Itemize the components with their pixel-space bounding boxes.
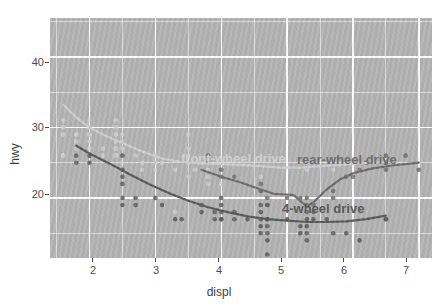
y-tick-label-30: 30 [26, 122, 44, 133]
data-point [160, 160, 165, 165]
data-point [100, 146, 105, 151]
data-point [212, 210, 217, 215]
x-tick-mark-2 [92, 258, 93, 262]
data-point [87, 132, 92, 137]
data-point [331, 189, 336, 194]
data-point [61, 132, 66, 137]
data-point [120, 182, 125, 187]
data-point [258, 182, 263, 187]
data-point [133, 203, 138, 208]
data-point [153, 167, 158, 172]
data-point [114, 118, 119, 123]
data-point [120, 132, 125, 137]
x-tick-label-5: 5 [274, 265, 288, 276]
data-point [173, 217, 178, 222]
data-point [305, 224, 310, 229]
data-point [120, 160, 125, 165]
x-tick-label-3: 3 [149, 265, 163, 276]
data-point [61, 153, 66, 158]
data-point [331, 231, 336, 236]
y-tick-mark-40 [45, 62, 49, 63]
x-tick-label-6: 6 [337, 265, 351, 276]
data-point [305, 196, 310, 201]
data-point [153, 196, 158, 201]
data-point [344, 231, 349, 236]
y-tick-mark-30 [45, 127, 49, 128]
data-point [133, 153, 138, 158]
data-point [305, 238, 310, 243]
series-label-rear-wheel-drive: rear-wheel drive [297, 152, 397, 167]
data-point [114, 153, 119, 158]
data-point [219, 196, 224, 201]
data-point [258, 175, 263, 180]
data-point [357, 238, 362, 243]
data-point [140, 167, 145, 172]
y-tick-label-40: 40 [26, 57, 44, 68]
x-tick-mark-5 [281, 258, 282, 262]
data-point [179, 217, 184, 222]
chart-figure: hwy displ 40 30 20 2 3 4 5 6 7 front-whe… [0, 0, 438, 308]
data-point [173, 210, 178, 215]
y-tick-mark-20 [45, 194, 49, 195]
data-point [74, 160, 79, 165]
x-axis-title: displ [0, 285, 438, 299]
data-point [285, 196, 290, 201]
data-point [120, 196, 125, 201]
data-point [403, 153, 408, 158]
data-point [265, 203, 270, 208]
x-tick-mark-3 [155, 258, 156, 262]
data-point [219, 203, 224, 208]
data-point [114, 125, 119, 130]
data-point [120, 153, 125, 158]
y-axis-title: hwy [8, 143, 22, 164]
data-point [384, 217, 389, 222]
data-point [74, 153, 79, 158]
data-point [114, 132, 119, 137]
data-point [219, 217, 224, 222]
data-point [120, 203, 125, 208]
data-point [74, 132, 79, 137]
data-point [265, 238, 270, 243]
data-point [186, 132, 191, 137]
y-tick-label-20: 20 [26, 189, 44, 200]
series-label-front-wheel-drive: front-wheel drive [181, 151, 286, 166]
data-point [140, 160, 145, 165]
data-point [87, 146, 92, 151]
data-point [74, 139, 79, 144]
data-point [120, 175, 125, 180]
data-point [258, 224, 263, 229]
x-tick-mark-6 [343, 258, 344, 262]
data-point [417, 167, 422, 172]
data-point [258, 210, 263, 215]
data-point [114, 146, 119, 151]
data-point [258, 203, 263, 208]
data-point [324, 217, 329, 222]
data-layer [50, 18, 432, 258]
data-point [265, 231, 270, 236]
x-tick-mark-7 [406, 258, 407, 262]
data-point [384, 167, 389, 172]
data-point [219, 182, 224, 187]
data-point [120, 146, 125, 151]
data-point [100, 153, 105, 158]
data-point [265, 252, 270, 257]
x-tick-label-7: 7 [399, 265, 413, 276]
data-point [219, 167, 224, 172]
data-point [265, 224, 270, 229]
data-point [173, 167, 178, 172]
data-point [160, 203, 165, 208]
data-point [232, 217, 237, 222]
data-point [186, 175, 191, 180]
data-point [265, 196, 270, 201]
data-point [133, 196, 138, 201]
data-point [331, 167, 336, 172]
data-point [305, 231, 310, 236]
plot-panel [50, 18, 432, 258]
data-point [61, 125, 66, 130]
data-point [258, 231, 263, 236]
data-point [87, 139, 92, 144]
data-point [87, 118, 92, 123]
data-point [298, 224, 303, 229]
x-tick-label-4: 4 [212, 265, 226, 276]
data-point [199, 210, 204, 215]
